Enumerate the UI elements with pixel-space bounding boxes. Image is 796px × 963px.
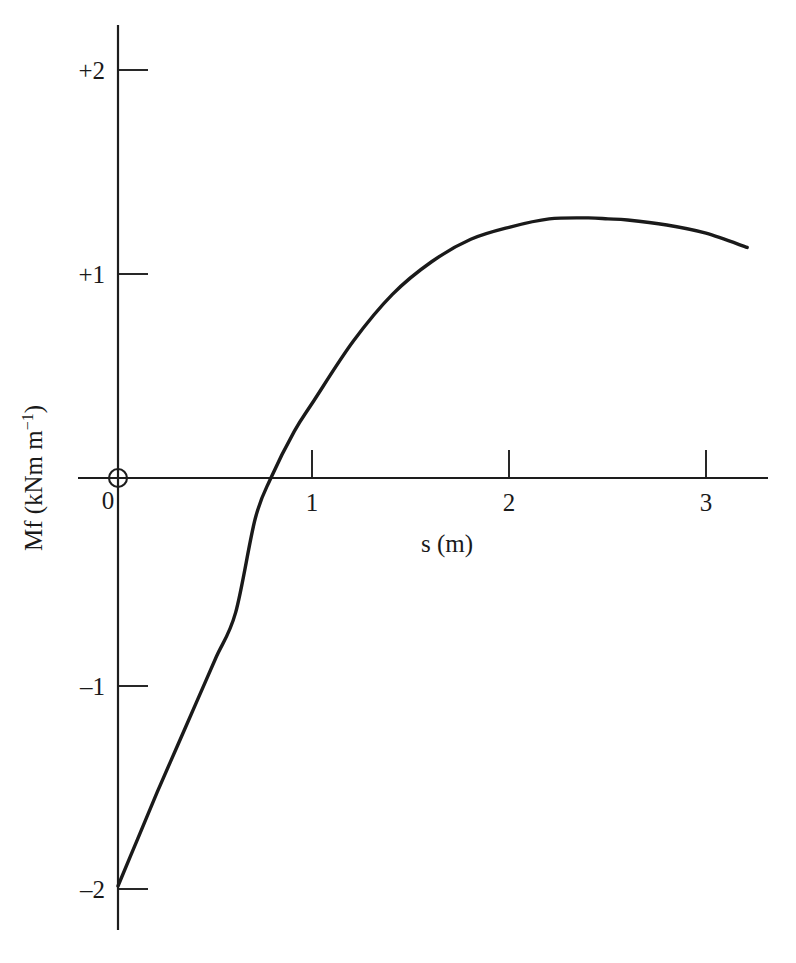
origin-label: 0 <box>102 487 115 514</box>
y-tick-label-plus1: +1 <box>78 261 105 288</box>
y-axis-title: Mf (kNm m−1) <box>19 405 48 551</box>
x-tick-label-2: 2 <box>503 489 516 516</box>
y-axis-title-close: ) <box>20 405 48 413</box>
y-axis-title-main: Mf (kNm m <box>20 430 48 551</box>
x-axis-title: s (m) <box>421 530 473 558</box>
bending-moment-chart: +2 +1 –1 –2 0 1 2 3 s (m) Mf (kNm m−1) <box>0 0 796 963</box>
y-axis-title-exponent: −1 <box>19 413 36 430</box>
x-tick-label-3: 3 <box>700 489 713 516</box>
x-tick-label-1: 1 <box>306 489 319 516</box>
chart-svg: +2 +1 –1 –2 0 1 2 3 s (m) Mf (kNm m−1) <box>0 0 796 963</box>
y-tick-label-minus1: –1 <box>79 673 105 700</box>
y-tick-label-minus2: –2 <box>79 876 105 903</box>
y-tick-label-plus2: +2 <box>78 57 105 84</box>
